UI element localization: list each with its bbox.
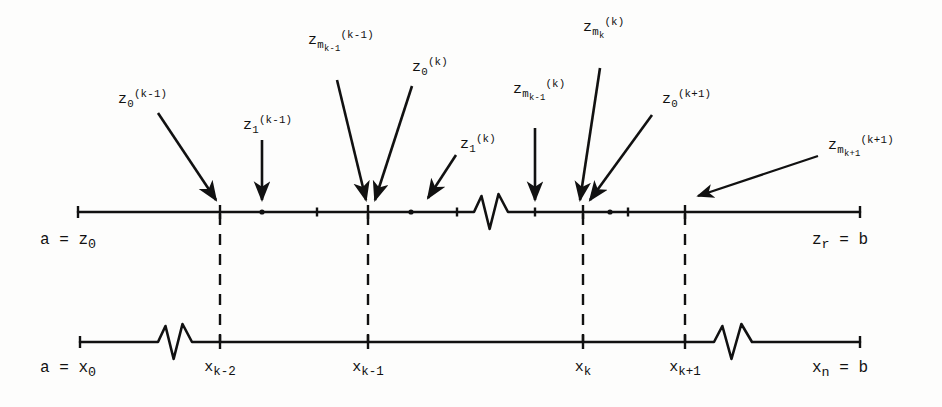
top-axis-tick-dot — [408, 209, 413, 214]
annotation-z1-k-minus-1-label: z1(k-1) — [243, 118, 292, 133]
diagram-canvas — [0, 0, 942, 407]
annotation-zm-k-sup-k-label: zmk(k) — [583, 20, 624, 36]
annotation-zm-k-plus-1-sup-k-plus-1-arrow — [698, 156, 818, 196]
top-axis-left-endpoint-label: a = z0 — [40, 232, 96, 252]
annotation-zm-k-minus-1-sup-k-minus-1-arrow — [337, 80, 366, 200]
partition-diagram-figure: a = z0 zr = b a = x0 xn = b xk-2xk-1xkxk… — [0, 0, 942, 407]
bottom-axis-right-endpoint-label: xn = b — [812, 360, 868, 380]
annotation-z0-k-plus-1-arrow — [590, 115, 652, 200]
annotation-zm-k-sup-k-arrow — [580, 68, 600, 200]
axes-layer — [78, 194, 860, 359]
bottom-axis-line — [80, 324, 860, 359]
top-axis-tick-dot — [607, 209, 612, 214]
annotation-z0-k-minus-1-arrow — [158, 113, 216, 200]
bottom-axis-tick-label: xk-1 — [352, 360, 384, 379]
bottom-axis-left-endpoint-label: a = x0 — [40, 360, 96, 380]
annotation-z1-k-arrow — [428, 155, 456, 198]
annotation-z0-k-minus-1-label: z0(k-1) — [118, 92, 167, 107]
annotation-zm-k-plus-1-sup-k-plus-1-label: zmk+1(k+1) — [828, 138, 894, 154]
annotation-z0-k-plus-1-label: z0(k+1) — [662, 92, 711, 107]
bottom-axis-tick-label: xk — [575, 360, 592, 379]
annotation-zm-k-minus-1-sup-k-label: zmk-1(k) — [513, 82, 565, 98]
annotation-z1-k-label: z1(k) — [460, 137, 496, 152]
top-axis-right-endpoint-label: zr = b — [812, 232, 868, 252]
annotation-z0-k-arrow — [375, 86, 412, 200]
bottom-axis-tick-label: xk-2 — [204, 360, 236, 379]
annotation-zm-k-minus-1-sup-k-minus-1-label: zmk-1(k-1) — [308, 33, 374, 49]
top-axis-line — [78, 194, 860, 229]
bottom-axis-tick-label: xk+1 — [669, 360, 701, 379]
annotation-z0-k-label: z0(k) — [412, 60, 448, 75]
connectors-layer — [220, 214, 685, 342]
top-axis-tick-dot — [259, 209, 264, 214]
